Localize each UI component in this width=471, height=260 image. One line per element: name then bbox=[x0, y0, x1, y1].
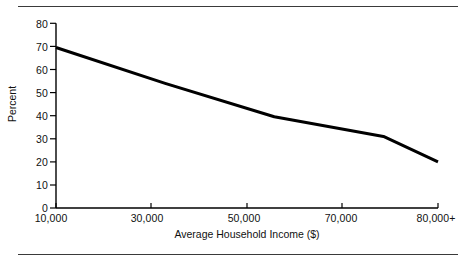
y-tick-label-20: 20 bbox=[26, 156, 48, 168]
y-axis-title: Percent bbox=[6, 74, 18, 134]
y-tick-label-30: 30 bbox=[26, 133, 48, 145]
bottom-divider-rule bbox=[18, 254, 458, 255]
y-tick-label-60: 60 bbox=[26, 64, 48, 76]
top-divider-rule bbox=[18, 6, 458, 7]
y-tick-label-10: 10 bbox=[26, 179, 48, 191]
y-tick-label-50: 50 bbox=[26, 87, 48, 99]
data-line-percent bbox=[56, 48, 438, 162]
y-tick-label-80: 80 bbox=[26, 18, 48, 30]
y-tick-marks bbox=[50, 23, 56, 208]
y-tick-label-70: 70 bbox=[26, 41, 48, 53]
x-axis-title: Average Household Income ($) bbox=[56, 228, 438, 240]
y-tick-label-40: 40 bbox=[26, 110, 48, 122]
x-tick-label-10000: 10,000 bbox=[11, 212, 91, 224]
chart-figure: Percent Average Household Income ($) 80 … bbox=[0, 0, 471, 260]
x-tick-label-80000plus: 80,000+ bbox=[396, 212, 471, 224]
x-tick-label-50000: 50,000 bbox=[204, 212, 284, 224]
x-tick-label-30000: 30,000 bbox=[107, 212, 187, 224]
x-tick-label-70000: 70,000 bbox=[301, 212, 381, 224]
x-tick-marks bbox=[56, 203, 438, 208]
